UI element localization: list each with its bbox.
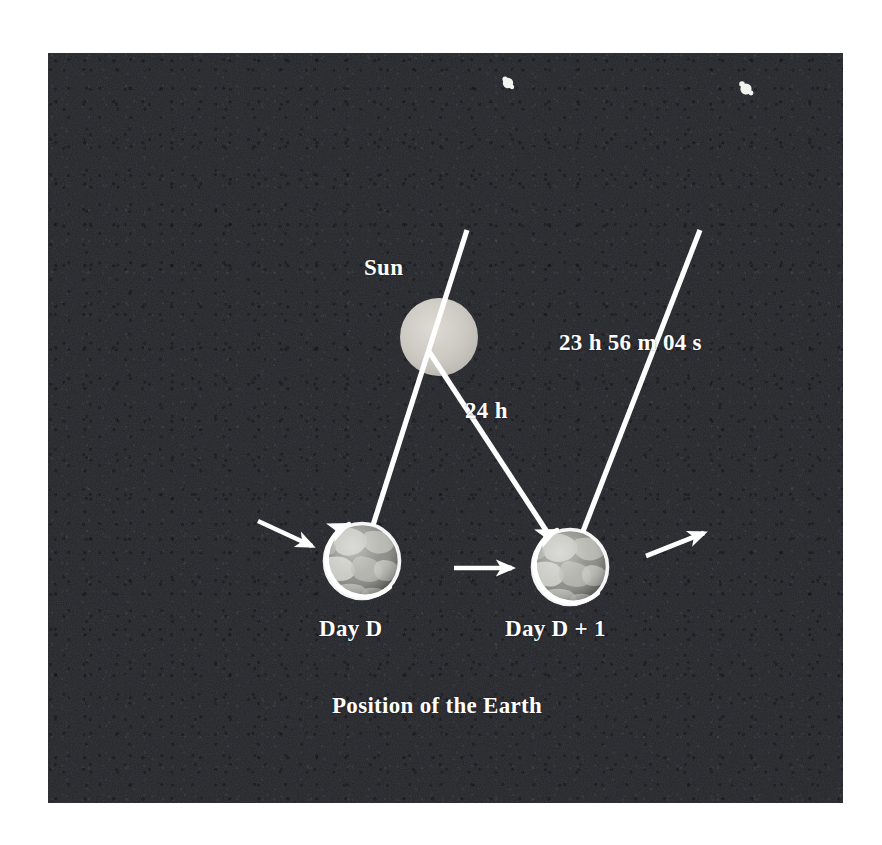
- figure-caption: Position of the Earth: [332, 694, 542, 717]
- orbit-arrow-outgoing: [646, 533, 704, 556]
- earth-label-day-d-plus-1: Day D + 1: [505, 617, 606, 640]
- sidereal-line-23h56m: [568, 230, 700, 570]
- sun-label: Sun: [364, 256, 403, 279]
- star-icon: [510, 85, 514, 89]
- star-icon: [749, 91, 754, 96]
- figure-root: Sun 24 h 23 h 56 m 04 s Day D Day D + 1 …: [0, 0, 882, 845]
- diagram-scene: [0, 0, 882, 845]
- star-field: [502, 76, 753, 95]
- star-icon: [502, 76, 507, 81]
- sidereal-day-label: 23 h 56 m 04 s: [559, 331, 702, 354]
- meridian-line-day-d: [360, 230, 467, 566]
- earth-label-day-d: Day D: [319, 617, 382, 640]
- star-icon: [739, 81, 745, 87]
- solar-day-label: 24 h: [465, 399, 508, 422]
- orbit-arrow-incoming: [258, 521, 312, 546]
